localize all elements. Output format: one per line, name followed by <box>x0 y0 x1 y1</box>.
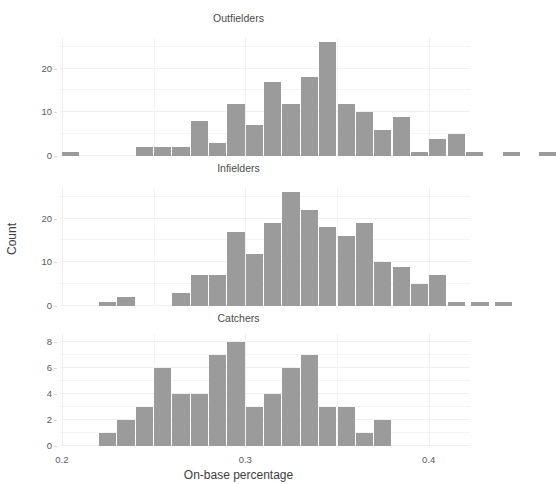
y-axis-title: Count <box>5 209 19 269</box>
histogram-bar <box>356 112 373 156</box>
histogram-bar <box>117 297 134 306</box>
x-tick-label: 0.2 <box>55 454 68 465</box>
histogram-bar <box>172 394 189 446</box>
histogram-bar <box>393 117 410 156</box>
histogram-bar <box>411 152 428 156</box>
y-tick-mark <box>54 306 57 307</box>
histogram-bar <box>448 134 465 156</box>
histogram-bar <box>319 227 336 306</box>
panel-title: Catchers <box>0 312 477 324</box>
histogram-bar <box>301 355 318 446</box>
y-tick-label: 4 <box>6 389 52 399</box>
y-tick-mark <box>54 368 57 369</box>
bar-series <box>60 38 470 156</box>
histogram-bar <box>227 342 244 446</box>
histogram-bar <box>466 152 483 156</box>
histogram-bar <box>282 192 299 306</box>
y-tick-label: 0 <box>6 151 52 161</box>
x-tick-label: 0.4 <box>422 454 435 465</box>
histogram-bar <box>338 407 355 446</box>
histogram-bar <box>282 104 299 156</box>
histogram-bar <box>356 433 373 446</box>
histogram-bar <box>338 236 355 306</box>
bar-series <box>60 334 470 446</box>
y-tick-mark <box>54 342 57 343</box>
histogram-bar <box>282 368 299 446</box>
histogram-bar <box>154 368 171 446</box>
histogram-bar <box>374 130 391 156</box>
histogram-bar <box>191 394 208 446</box>
histogram-bar <box>154 147 171 156</box>
histogram-bar <box>191 121 208 156</box>
histogram-bar <box>301 77 318 156</box>
histogram-bar <box>246 125 263 156</box>
histogram-bar <box>191 275 208 306</box>
y-tick-mark <box>54 69 57 70</box>
y-tick-mark <box>54 156 57 157</box>
histogram-bar <box>393 267 410 306</box>
y-tick-label: 10 <box>6 107 52 117</box>
histogram-bar <box>374 262 391 306</box>
plot-area <box>60 38 470 156</box>
histogram-bar <box>429 139 446 156</box>
histogram-bar <box>227 232 244 306</box>
x-axis-title: On-base percentage <box>0 468 477 482</box>
y-tick-mark <box>54 446 57 447</box>
y-tick-mark <box>54 112 57 113</box>
y-tick-label: 6 <box>6 363 52 373</box>
histogram-bar <box>99 302 116 306</box>
histogram-bar <box>356 223 373 306</box>
histogram-bar <box>411 284 428 306</box>
histogram-bar <box>264 394 281 446</box>
corner-text-artifact <box>2 1 28 8</box>
histogram-bar <box>62 152 79 156</box>
histogram-bar <box>209 275 226 306</box>
plot-area <box>60 188 470 306</box>
y-tick-mark <box>54 219 57 220</box>
x-tick-label: 0.3 <box>239 454 252 465</box>
histogram-bar <box>172 293 189 306</box>
histogram-bar <box>495 302 512 306</box>
panel-catchers: Catchers02468 <box>0 312 477 446</box>
panel-infielders: Infielders01020 <box>0 162 477 306</box>
histogram-bar <box>172 147 189 156</box>
histogram-bar <box>319 407 336 446</box>
histogram-bar <box>99 433 116 446</box>
histogram-bar <box>338 104 355 156</box>
histogram-bar <box>264 223 281 306</box>
y-tick-mark <box>54 420 57 421</box>
plot-area <box>60 334 470 446</box>
y-tick-label: 0 <box>6 301 52 311</box>
y-tick-mark <box>54 262 57 263</box>
y-tick-label: 20 <box>6 64 52 74</box>
histogram-bar <box>471 302 488 306</box>
histogram-bar <box>209 355 226 446</box>
histogram-bar <box>448 302 465 306</box>
histogram-bar <box>301 210 318 306</box>
panel-title: Infielders <box>0 162 477 174</box>
histogram-bar <box>264 82 281 156</box>
y-tick-label: 2 <box>6 415 52 425</box>
y-tick-label: 0 <box>6 441 52 451</box>
histogram-bar <box>246 254 263 306</box>
panel-outfielders: Outfielders01020 <box>0 12 477 156</box>
histogram-bar <box>227 104 244 156</box>
bar-series <box>60 188 470 306</box>
histogram-bar <box>319 42 336 156</box>
histogram-bar <box>136 407 153 446</box>
histogram-bar <box>374 420 391 446</box>
histogram-bar <box>136 147 153 156</box>
panel-title: Outfielders <box>0 12 477 24</box>
histogram-bar <box>117 420 134 446</box>
histogram-bar <box>429 275 446 306</box>
histogram-bar <box>539 152 556 156</box>
y-tick-label: 8 <box>6 337 52 347</box>
histogram-bar <box>246 407 263 446</box>
histogram-bar <box>503 152 520 156</box>
y-tick-mark <box>54 394 57 395</box>
histogram-bar <box>209 143 226 156</box>
